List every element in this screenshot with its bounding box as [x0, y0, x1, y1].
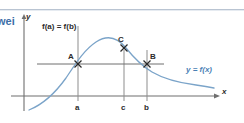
point-label-b: B	[150, 52, 156, 61]
x-axis-label: x	[222, 87, 226, 96]
x-tick-label-a: a	[75, 103, 79, 112]
y-axis-label: y	[26, 12, 30, 21]
x-tick-label-c: c	[121, 103, 125, 112]
x-tick-label-b: b	[144, 103, 149, 112]
point-label-a: A	[68, 52, 74, 61]
equality-annotation: f(a) = f(b)	[42, 22, 76, 31]
figure-screenshot: wei	[0, 0, 244, 123]
point-label-c: C	[118, 35, 124, 44]
curve-label: y = f(x)	[186, 65, 212, 74]
x-axis	[11, 93, 220, 98]
